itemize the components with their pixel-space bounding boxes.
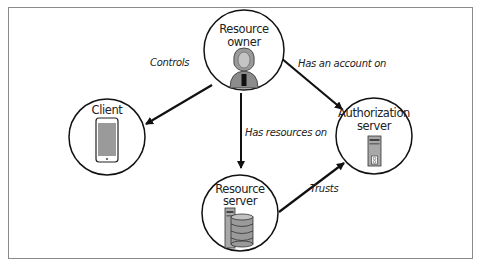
- node-label-line: owner: [227, 35, 261, 49]
- node-label-line: server: [357, 119, 392, 133]
- node-resource-server: Resource server: [202, 175, 278, 251]
- edge-label-controls: Controls: [150, 57, 189, 68]
- oauth-diagram: Controls Has an account on Has resources…: [0, 0, 482, 265]
- edge-controls: Controls: [146, 57, 212, 124]
- edge-label-has-account: Has an account on: [298, 58, 386, 69]
- smartphone-icon: [96, 118, 118, 162]
- node-label-line: Client: [92, 103, 124, 117]
- edge-label-has-resources: Has resources on: [245, 127, 327, 138]
- edge-has-resources: Has resources on: [241, 93, 327, 168]
- edge-trusts: Trusts: [279, 163, 344, 212]
- node-label-line: Authorization: [338, 106, 410, 120]
- node-authorization-server: Authorization server: [336, 98, 412, 174]
- node-label-line: Resource: [219, 22, 269, 36]
- server-tower-icon: [368, 136, 381, 166]
- node-client: Client: [69, 99, 145, 175]
- node-resource-owner: Resource owner: [204, 10, 284, 90]
- node-label-line: server: [223, 194, 258, 208]
- edge-label-trusts: Trusts: [310, 183, 338, 194]
